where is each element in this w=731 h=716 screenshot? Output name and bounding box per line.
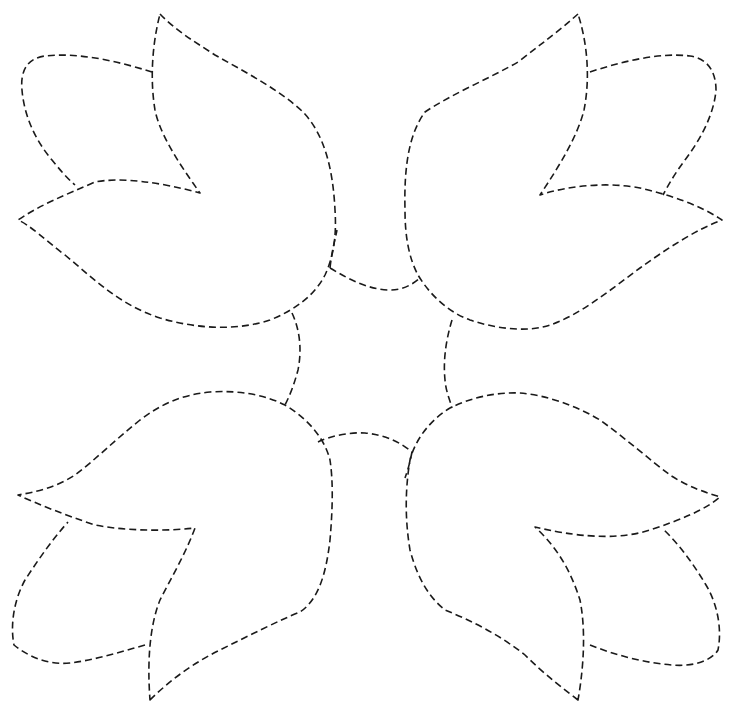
connector-arc-top <box>330 268 420 290</box>
connector-stub-top <box>330 230 337 268</box>
connector-arc-right <box>444 320 452 408</box>
tulip-pattern-diagram <box>0 0 731 716</box>
tulip-top-left-bloom <box>18 14 335 327</box>
tulip-top-right-bloom <box>405 14 722 329</box>
tulip-bottom-left-bloom <box>18 392 332 700</box>
tulip-bottom-right-leaf <box>590 528 720 665</box>
tulip-top-right-leaf <box>590 55 716 195</box>
connector-arc-left <box>285 313 300 405</box>
tulip-bottom-left-leaf <box>12 522 145 663</box>
tulip-top-left-leaf <box>22 55 152 185</box>
pattern-outlines <box>12 14 722 700</box>
connector-arc-bottom <box>318 433 412 452</box>
tulip-bottom-right-bloom <box>406 393 720 700</box>
